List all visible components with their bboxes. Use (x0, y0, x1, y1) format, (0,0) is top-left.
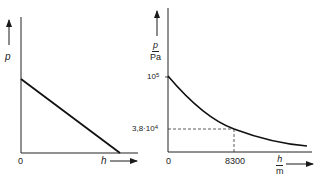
right-x-tick-label-8300: 8300 (225, 157, 245, 166)
right-y-label-denominator: Pa (150, 52, 161, 62)
right-y-axis-label: p Pa (150, 41, 161, 62)
right-exponential-curve (168, 76, 307, 146)
right-y-tick-label-top: 105 (147, 73, 159, 81)
right-x-label-numerator: h (276, 155, 283, 166)
left-y-axis-label: p (5, 52, 11, 62)
right-x-label-denominator: m (276, 166, 284, 176)
left-linear-line (21, 79, 120, 153)
right-y-tick-label-mid: 3,8·104 (132, 125, 158, 133)
right-x-axis-label: h m (276, 155, 284, 176)
left-origin-label: 0 (18, 157, 23, 166)
charts-canvas (0, 0, 321, 179)
right-origin-label: 0 (166, 157, 171, 166)
right-y-label-numerator: p (152, 41, 159, 52)
left-x-axis-label: h (101, 156, 107, 166)
left-chart (9, 17, 138, 161)
right-chart (157, 8, 313, 164)
